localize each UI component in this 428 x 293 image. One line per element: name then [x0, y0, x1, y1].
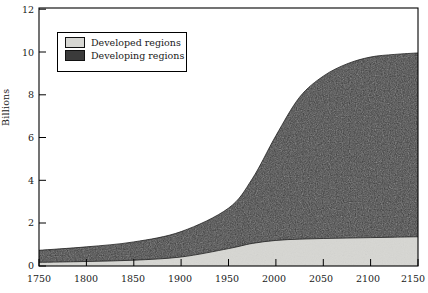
legend-swatch-developed [65, 37, 85, 48]
legend: Developed regions Developing regions [57, 32, 187, 72]
legend-label-developed: Developed regions [91, 37, 181, 48]
legend-item-developed: Developed regions [58, 33, 186, 49]
legend-item-developing: Developing regions [58, 49, 186, 65]
population-projection-chart: Billions 0 2 4 6 8 10 12 1750 1800 1850 … [0, 0, 428, 293]
legend-label-developing: Developing regions [91, 50, 184, 61]
legend-swatch-developing [65, 50, 85, 61]
